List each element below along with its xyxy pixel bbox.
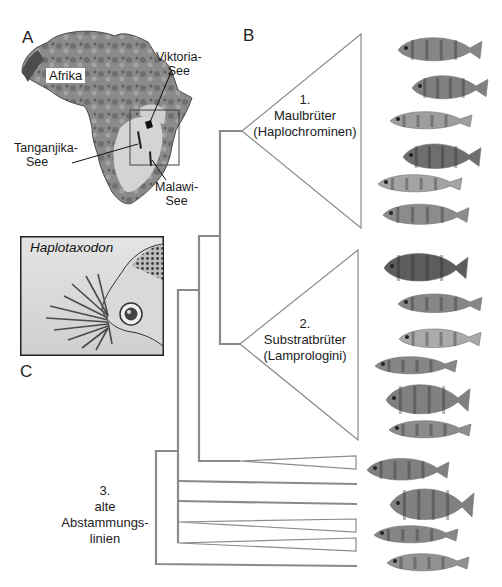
fish-photo [387, 554, 469, 571]
continent-label: Afrika [46, 68, 85, 83]
clade-3-label: 3. alte Abstammungs- linien [50, 483, 160, 547]
lake-label-line: See [156, 64, 202, 78]
lineage-2 [178, 501, 357, 504]
lineage-wedge-2 [178, 519, 356, 532]
fish-photo [375, 357, 457, 374]
fish-photo [386, 385, 470, 414]
clade-name: Maulbrüter [250, 108, 360, 124]
clade-1-label: 1. Maulbrüter (Haplochrominen) [250, 92, 360, 140]
fish-photo [390, 489, 474, 520]
clade-2-label: 2. Substratbrüter (Lamprologini) [250, 316, 360, 364]
lake-label-line: See [14, 155, 78, 169]
branch-root [156, 451, 357, 566]
lake-label-line: Tanganjika- [14, 141, 78, 155]
fish-photo [390, 112, 472, 129]
branch-clade-1-2 [199, 236, 240, 461]
fish-photo [398, 38, 482, 61]
clade-name: Substratbrüter [250, 332, 360, 348]
fish-photo [383, 204, 469, 224]
lineage-wedge-1 [240, 456, 356, 469]
clade-group: (Lamprologini) [250, 348, 360, 364]
fish-photo [378, 175, 462, 192]
fish-photo [399, 329, 481, 348]
lineage-wedge-3 [178, 538, 356, 551]
fish-photo [367, 458, 449, 480]
clade-number: 2. [250, 316, 360, 332]
clade-name: Abstammungs- [50, 515, 160, 531]
fish-photo [389, 421, 471, 438]
panel-c: Haplotaxodon [20, 236, 164, 356]
clade-1-triangle [242, 34, 361, 228]
species-name: Haplotaxodon [30, 240, 113, 255]
clade-number: 1. [250, 92, 360, 108]
branch-old-lineages [178, 290, 199, 543]
panel-b-letter: B [243, 26, 254, 46]
lineage-1 [178, 481, 357, 484]
fish-photo [412, 76, 488, 99]
lake-label-malawi: Malawi- See [155, 180, 198, 208]
lake-label-tanganjika: Tanganjika- See [14, 141, 78, 169]
clade-name: alte [50, 499, 160, 515]
lake-label-line: See [155, 194, 198, 208]
clade-number: 3. [50, 483, 160, 499]
panel-a-letter: A [22, 28, 33, 48]
clade-name: linien [50, 531, 160, 547]
branch-clade-1 [220, 131, 242, 344]
panel-a: A Afrika Viktoria- See Tanganjika- See M… [0, 0, 220, 210]
lake-label-line: Viktoria- [156, 50, 202, 64]
fish-photo [403, 144, 481, 169]
lake-label-viktoria: Viktoria- See [156, 50, 202, 78]
clade-2-triangle [240, 250, 358, 440]
fish-photo [384, 253, 468, 281]
lake-label-line: Malawi- [155, 180, 198, 194]
panel-c-letter: C [20, 362, 32, 382]
fish-photo [374, 526, 458, 543]
fish-photo [398, 294, 482, 313]
clade-group: (Haplochrominen) [250, 124, 360, 140]
